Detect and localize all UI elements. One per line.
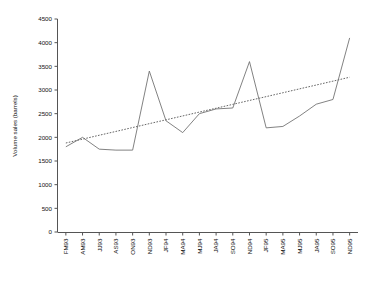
x-tick-label: JF95 bbox=[262, 238, 269, 252]
trend-line-series bbox=[66, 77, 350, 143]
y-axis-title: Volume sales (barrels) bbox=[11, 95, 18, 157]
x-tick-label: AM93 bbox=[79, 238, 86, 255]
x-axis-ticks: FM93AM93JJ93AS93ON93ND93JF94MA94MJ94JA94… bbox=[62, 232, 353, 255]
x-tick-label: MA95 bbox=[279, 238, 286, 255]
y-tick-label: 3500 bbox=[38, 63, 52, 70]
y-axis-ticks: 050010001500200025003000350040004500 bbox=[38, 15, 57, 235]
y-tick-label: 3000 bbox=[38, 86, 52, 93]
x-tick-label: JA94 bbox=[212, 238, 219, 253]
x-tick-label: MA94 bbox=[179, 238, 186, 255]
y-tick-label: 2500 bbox=[38, 110, 52, 117]
y-tick-label: 500 bbox=[42, 205, 53, 212]
volume-sales-series bbox=[66, 38, 350, 150]
x-tick-label: MJ94 bbox=[196, 238, 203, 254]
chart-container: 050010001500200025003000350040004500 Vol… bbox=[0, 0, 370, 281]
x-tick-label: SO95 bbox=[329, 238, 336, 254]
x-axis: FM93AM93JJ93AS93ON93ND93JF94MA94MJ94JA94… bbox=[58, 232, 359, 255]
line-chart: 050010001500200025003000350040004500 Vol… bbox=[0, 0, 370, 281]
y-tick-label: 1500 bbox=[38, 157, 52, 164]
x-tick-label: JA95 bbox=[313, 238, 320, 253]
x-tick-label: JF94 bbox=[162, 238, 169, 252]
x-tick-label: JJ93 bbox=[96, 238, 103, 252]
y-tick-label: 4500 bbox=[38, 15, 52, 22]
x-tick-label: ON93 bbox=[129, 238, 136, 255]
x-tick-label: ND93 bbox=[146, 238, 153, 254]
x-tick-label: AS93 bbox=[112, 238, 119, 254]
x-tick-label: SO94 bbox=[229, 238, 236, 254]
y-axis: 050010001500200025003000350040004500 Vol… bbox=[11, 15, 58, 235]
x-tick-label: ND94 bbox=[246, 238, 253, 254]
x-tick-label: FM93 bbox=[62, 238, 69, 254]
y-tick-label: 0 bbox=[49, 228, 53, 235]
y-tick-label: 1000 bbox=[38, 181, 52, 188]
y-tick-label: 2000 bbox=[38, 134, 52, 141]
x-tick-label: MJ95 bbox=[296, 238, 303, 254]
y-tick-label: 4000 bbox=[38, 39, 52, 46]
x-tick-label: ND95 bbox=[346, 238, 353, 254]
